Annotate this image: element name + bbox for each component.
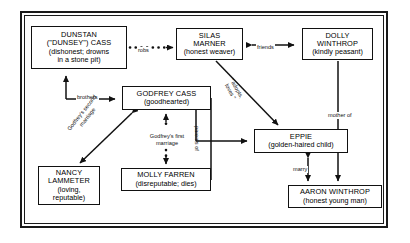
node-molly-farren[interactable]: MOLLY FARREN (disreputable; dies)	[121, 168, 211, 191]
node-aaron-winthrop[interactable]: AARON WINTHROP (honest young man)	[288, 185, 382, 208]
character-relationship-diagram: DUNSTAN ("DUNSEY") CASS (dishonest; drow…	[0, 0, 410, 243]
edge-label-godfreys-first-marriage: Godfrey's first marriage	[141, 133, 193, 146]
node-nancy-desc-line2: reputable)	[53, 194, 85, 202]
node-nancy-lammeter[interactable]: NANCY LAMMETER (loving, reputable)	[38, 166, 100, 205]
node-godfrey-cass[interactable]: GODFREY CASS (goodhearted)	[122, 86, 211, 110]
node-aaron-desc-line1: (honest young man)	[303, 197, 367, 205]
edge-label-marry: marry	[292, 166, 308, 173]
node-eppie-desc-line1: (golden-haired child)	[268, 141, 334, 149]
edge-label-robs: robs	[137, 47, 150, 54]
node-molly-desc-line1: (disreputable; dies)	[135, 180, 196, 188]
node-dolly-winthrop[interactable]: DOLLY WINTHROP (kindly peasant)	[302, 28, 373, 60]
edge-adopts-loves	[216, 61, 278, 125]
node-eppie[interactable]: EPPIE (golden-haired child)	[254, 129, 348, 153]
node-dolly-desc-line1: (kindly peasant)	[312, 48, 363, 56]
edge-label-friends: friends	[256, 44, 275, 51]
node-silas-marner[interactable]: SILAS MARNER (honest weaver)	[176, 28, 243, 60]
node-godfrey-desc-line1: (goodhearted)	[144, 98, 189, 106]
node-dunstan-desc-line2: in a stone pit)	[57, 56, 100, 64]
edge-label-parents-of: parents of	[193, 126, 200, 151]
edge-label-mother-of: mother of	[327, 112, 353, 119]
edge-label-gf1-line2: marriage	[142, 140, 192, 147]
node-silas-desc-line1: (honest weaver)	[184, 48, 236, 56]
node-dunstan-cass[interactable]: DUNSTAN ("DUNSEY") CASS (dishonest; drow…	[31, 26, 127, 69]
edge-label-gf1-line1: Godfrey's first	[142, 133, 192, 140]
